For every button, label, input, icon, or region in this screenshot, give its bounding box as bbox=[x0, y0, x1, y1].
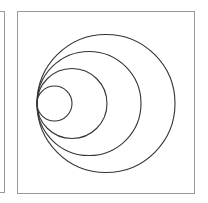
circle-largest bbox=[37, 35, 175, 173]
circle-smallest bbox=[37, 86, 72, 121]
circle-third bbox=[37, 52, 141, 156]
internally-tangent-circles-diagram bbox=[0, 0, 208, 203]
